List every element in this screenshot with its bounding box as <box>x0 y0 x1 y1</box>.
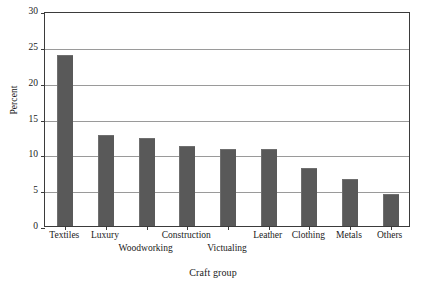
gridline <box>45 121 409 122</box>
bar <box>301 168 317 226</box>
bar-chart: Percent 051015202530 TextilesLuxuryWoodw… <box>0 0 426 290</box>
y-axis-tick-mark <box>41 49 45 50</box>
x-axis-tick-label: Clothing <box>292 231 325 241</box>
y-axis-tick-label: 25 <box>12 43 38 53</box>
y-axis-tick-labels: 051015202530 <box>12 0 38 290</box>
x-axis-tick-label: Metals <box>336 231 362 241</box>
y-axis-tick-label: 10 <box>12 151 38 161</box>
x-axis-tick-label: Construction <box>162 231 211 241</box>
plot-area <box>44 12 410 227</box>
gridline <box>45 85 409 86</box>
bar <box>342 179 358 226</box>
x-axis-tick-label: Others <box>377 231 402 241</box>
y-axis-tick-mark <box>41 121 45 122</box>
y-axis-tick-label: 30 <box>12 7 38 17</box>
bar <box>139 138 155 226</box>
x-axis-tick-label: Victualing <box>207 244 247 254</box>
y-axis-tick-mark <box>41 192 45 193</box>
bar <box>57 55 73 226</box>
bar <box>98 135 114 226</box>
y-axis-tick-label: 5 <box>12 186 38 196</box>
x-axis-tick-label: Textiles <box>49 231 79 241</box>
x-axis-tick-label: Woodworking <box>119 244 173 254</box>
bar <box>261 149 277 226</box>
x-axis-tick-label: Luxury <box>91 231 119 241</box>
bar <box>220 149 236 226</box>
y-axis-tick-mark <box>41 85 45 86</box>
y-axis-tick-label: 0 <box>12 222 38 232</box>
bar <box>179 146 195 226</box>
y-axis-tick-label: 15 <box>12 115 38 125</box>
x-axis-title: Craft group <box>0 267 426 278</box>
y-axis-tick-label: 20 <box>12 79 38 89</box>
x-axis-tick-labels: TextilesLuxuryWoodworkingConstructionVic… <box>44 227 410 261</box>
y-axis-tick-mark <box>41 156 45 157</box>
bar <box>383 194 399 226</box>
y-axis-tick-mark <box>41 13 45 14</box>
gridline <box>45 49 409 50</box>
x-axis-tick-label: Leather <box>253 231 282 241</box>
